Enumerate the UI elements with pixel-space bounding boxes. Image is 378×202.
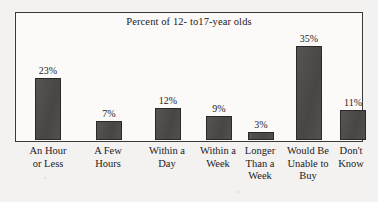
category-label-line: An Hour <box>17 145 79 158</box>
category-label-line: Know <box>320 158 378 171</box>
category-label-line: or Less <box>17 158 79 171</box>
bar-rect[interactable] <box>96 121 122 140</box>
bar-rect[interactable] <box>35 78 61 140</box>
bar-value-label: 12% <box>159 96 177 106</box>
bar-value-label: 7% <box>102 109 115 119</box>
bar-rect[interactable] <box>296 46 322 140</box>
bar-value-label: 23% <box>39 66 57 76</box>
bar-value-label: 9% <box>212 104 225 114</box>
bar-rect[interactable] <box>206 116 232 140</box>
bar-rect[interactable] <box>340 110 366 140</box>
bar-rect[interactable] <box>155 108 181 140</box>
bars-layer: 23%7%12%9%3%35%11% <box>16 13 362 141</box>
bar-group[interactable]: 9% <box>206 104 232 140</box>
category-label: Don'tKnow <box>320 145 378 170</box>
category-label-line: A Few <box>77 145 139 158</box>
bar-group[interactable]: 35% <box>296 34 322 140</box>
bar-value-label: 3% <box>254 120 267 130</box>
bar-rect[interactable] <box>248 132 274 140</box>
bar-value-label: 35% <box>300 34 318 44</box>
bar-group[interactable]: 12% <box>155 96 181 140</box>
bar-value-label: 11% <box>344 98 362 108</box>
category-label: A FewHours <box>77 145 139 170</box>
category-label-line: Buy <box>277 170 339 183</box>
category-label-line: Hours <box>77 158 139 171</box>
category-axis-labels: An Houror LessA FewHoursWithin aDayWithi… <box>15 145 363 197</box>
bar-group[interactable]: 11% <box>340 98 366 140</box>
category-label: An Houror Less <box>17 145 79 170</box>
bar-group[interactable]: 3% <box>248 120 274 140</box>
bar-group[interactable]: 7% <box>96 109 122 140</box>
bar-group[interactable]: 23% <box>35 66 61 140</box>
bar-chart-figure: Percent of 12- to17-year olds 23%7%12%9%… <box>0 0 378 202</box>
plot-frame: Percent of 12- to17-year olds 23%7%12%9%… <box>15 12 363 142</box>
category-label-line: Don't <box>320 145 378 158</box>
